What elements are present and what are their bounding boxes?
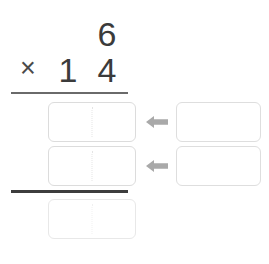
work-box-2[interactable] — [176, 146, 261, 186]
total-answer-box[interactable] — [48, 199, 136, 239]
partial-product-box-1[interactable] — [48, 102, 136, 142]
arrow-left-icon — [146, 114, 168, 130]
partial-product-box-2[interactable] — [48, 146, 136, 186]
multiplication-worksheet: 6 × 1 4 — [0, 0, 269, 264]
carry-digit: 6 — [93, 17, 121, 51]
multiplier-tens-digit: 1 — [54, 53, 82, 87]
work-box-1[interactable] — [176, 102, 261, 142]
total-rule — [11, 190, 128, 193]
multiplier-ones-digit: 4 — [93, 53, 121, 87]
multiplication-operator: × — [14, 55, 42, 82]
arrow-left-icon — [146, 158, 168, 174]
problem-rule — [11, 92, 128, 94]
